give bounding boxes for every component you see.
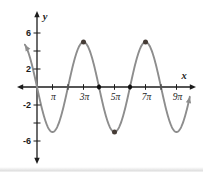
- extremum-point: [81, 40, 86, 45]
- x-axis-label: x: [180, 70, 186, 81]
- x-tick-label: 3π: [79, 92, 90, 102]
- graph-canvas: π3π5π7π9π62-2-6xy: [0, 0, 203, 172]
- x-tick-label: 9π: [173, 92, 183, 102]
- y-tick-label: 6: [26, 28, 31, 38]
- y-tick-label: 2: [26, 64, 31, 74]
- sine-graph-figure: π3π5π7π9π62-2-6xy: [0, 0, 203, 172]
- axis-intersection-point: [128, 85, 132, 89]
- y-axis-down-arrow-icon: [34, 158, 39, 164]
- x-axis-right-arrow-icon: [190, 84, 196, 89]
- y-tick-label: -2: [23, 100, 31, 110]
- axis-intersection-point: [97, 85, 101, 89]
- x-tick-label: π: [51, 92, 56, 102]
- x-tick-label: 5π: [111, 92, 121, 102]
- y-axis-up-arrow-icon: [34, 11, 39, 17]
- extremum-point: [112, 130, 117, 135]
- y-axis-label: y: [41, 11, 48, 22]
- x-tick-label: 7π: [142, 92, 152, 102]
- y-tick-label: -6: [23, 136, 31, 146]
- x-axis-left-arrow-icon: [17, 84, 23, 89]
- extremum-point: [143, 40, 148, 45]
